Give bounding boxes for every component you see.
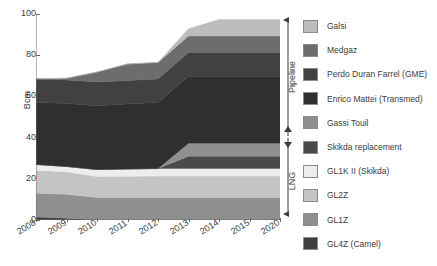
x-tick-label: 2009 [46,217,68,236]
x-tick-label: 2012 [137,217,159,236]
legend-swatch [303,68,318,81]
x-tick-mark [128,218,129,222]
legend-item[interactable]: Enrico Mattei (Transmed) [303,87,437,111]
category-brackets: Pipeline LNG [281,14,303,222]
x-tick-mark [158,218,159,222]
legend-item-label: Perdo Duran Farrel (GME) [327,69,427,79]
x-tick-mark [97,218,98,222]
x-tick-label: 2014 [198,217,220,236]
x-axis-ticks: 200820092010201120122013201420152020 [36,222,286,262]
stacked-area-chart: Bcm 020406080100 20082009201020112012201… [0,0,437,266]
legend-item[interactable]: GL4Z (Camel) [303,232,437,256]
legend-item[interactable]: Perdo Duran Farrel (GME) [303,62,437,86]
plot-area [36,14,280,220]
bracket-label-lng: LNG [287,156,297,206]
x-tick-label: 2011 [107,218,129,237]
legend-swatch [303,165,318,178]
y-tick-label: 100 [2,9,36,18]
legend-swatch [303,92,318,105]
legend-item[interactable]: GL2Z [303,183,437,207]
x-tick-mark [219,218,220,222]
legend-item-label: Enrico Mattei (Transmed) [327,94,423,104]
legend-item[interactable]: Medgaz [303,38,437,62]
legend-swatch [303,189,318,202]
legend-swatch [303,213,318,226]
legend-item[interactable]: Galsi [303,14,437,38]
y-tick-label: 40 [2,133,36,142]
legend-item[interactable]: GL1Z [303,208,437,232]
legend-swatch [303,116,318,129]
legend-item-label: GL2Z [327,190,348,200]
plot-svg [36,14,280,220]
legend-swatch [303,141,318,154]
y-tick-label: 80 [2,50,36,59]
bracket-label-pipeline: Pipeline [287,52,297,102]
legend-item[interactable]: GL1K II (Skikda) [303,159,437,183]
legend-swatch [303,237,318,250]
legend-item[interactable]: Gassi Touil [303,111,437,135]
legend-swatch [303,44,318,57]
x-tick-label: 2010 [76,217,98,236]
x-tick-label: 2015 [229,217,251,236]
legend-item-label: Medgaz [327,45,357,55]
legend-item-label: Skikda replacement [327,142,402,152]
y-tick-label: 20 [2,174,36,183]
y-tick-label: 60 [2,91,36,100]
y-axis-ticks: 020406080100 [0,14,36,220]
x-tick-label: 2013 [168,217,190,236]
legend-item[interactable]: Skikda replacement [303,135,437,159]
x-tick-mark [36,218,37,222]
legend-item-label: GL4Z (Camel) [327,239,381,249]
legend-swatch [303,20,318,33]
legend-item-label: GL1K II (Skikda) [327,166,389,176]
x-tick-mark [189,218,190,222]
legend-item-label: Gassi Touil [327,118,368,128]
x-tick-mark [67,218,68,222]
legend-item-label: Galsi [327,21,346,31]
legend-item-label: GL1Z [327,215,348,225]
chart-legend: GalsiMedgazPerdo Duran Farrel (GME)Enric… [303,14,437,256]
x-tick-label: 2020 [259,217,281,236]
x-tick-mark [250,218,251,222]
